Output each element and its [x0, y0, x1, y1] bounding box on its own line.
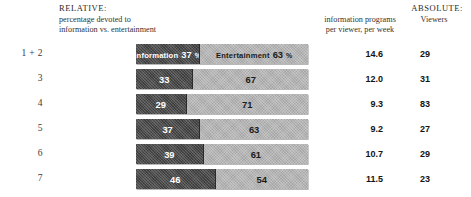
information-segment: Information37%: [136, 44, 200, 64]
row-label: 4: [0, 98, 43, 108]
stacked-bar: 3367: [136, 69, 308, 89]
chart-rows: 1 + 2Information37%Entertainment63%14.62…: [0, 44, 471, 194]
programs-per-viewer-value: 12.0: [330, 74, 383, 84]
entertainment-segment: 67: [193, 69, 308, 89]
entertainment-segment-value: 63: [249, 124, 259, 135]
information-segment-value: 33: [159, 74, 169, 85]
information-segment-value: 29: [156, 99, 166, 110]
viewers-value: 83: [393, 99, 430, 109]
absolute-column-title: ABSOLUTE:: [411, 3, 463, 13]
stacked-bar: 4654: [136, 169, 308, 189]
row-label: 3: [0, 73, 43, 83]
entertainment-segment-name: Entertainment: [216, 51, 270, 60]
viewers-value: 29: [393, 149, 430, 159]
entertainment-segment: Entertainment63%: [200, 44, 308, 64]
stacked-bar: 2971: [136, 94, 308, 114]
relative-column-subtitle: percentage devoted to information vs. en…: [59, 15, 156, 34]
information-segment: 33: [136, 69, 193, 89]
entertainment-segment: 63: [200, 119, 308, 139]
stacked-bar: Information37%Entertainment63%: [136, 44, 308, 64]
programs-per-viewer-value: 9.2: [330, 124, 383, 134]
absolute-subtitle-line-1: information programs: [312, 15, 408, 25]
information-segment-value: 46: [170, 174, 180, 185]
viewers-value: 31: [393, 74, 430, 84]
chart-row: 537639.227: [0, 119, 471, 139]
programs-per-viewer-value: 10.7: [330, 149, 383, 159]
chart-row: 1 + 2Information37%Entertainment63%14.62…: [0, 44, 471, 64]
absolute-column-subtitle: information programs per viewer, per wee…: [312, 15, 408, 34]
entertainment-segment-value: 54: [257, 174, 267, 185]
information-segment: 37: [136, 119, 200, 139]
stacked-bar: 3961: [136, 144, 308, 164]
row-label: 5: [0, 123, 43, 133]
viewers-column-header: Viewers: [408, 15, 460, 24]
entertainment-segment: 71: [187, 94, 308, 114]
viewers-value: 29: [393, 49, 430, 59]
programs-per-viewer-value: 9.3: [330, 99, 383, 109]
information-segment: 39: [136, 144, 204, 164]
information-segment: 29: [136, 94, 187, 114]
entertainment-segment-value: 67: [245, 74, 255, 85]
chart-row: 3336712.031: [0, 69, 471, 89]
relative-subtitle-line-1: percentage devoted to: [59, 15, 156, 25]
entertainment-segment: 54: [216, 169, 308, 189]
entertainment-segment: 61: [204, 144, 308, 164]
entertainment-segment-value: 71: [242, 99, 252, 110]
stacked-bar: 3763: [136, 119, 308, 139]
absolute-subtitle-line-2: per viewer, per week: [312, 25, 408, 35]
chart-sheet: RELATIVE: percentage devoted to informat…: [0, 0, 471, 197]
chart-row: 6396110.729: [0, 144, 471, 164]
chart-row: 7465411.523: [0, 169, 471, 189]
programs-per-viewer-value: 11.5: [330, 174, 383, 184]
viewers-value: 23: [393, 174, 430, 184]
row-label: 7: [0, 173, 43, 183]
programs-per-viewer-value: 14.6: [330, 49, 383, 59]
relative-column-title: RELATIVE:: [59, 3, 107, 13]
information-segment-value: 37: [162, 124, 172, 135]
information-segment-value: 39: [164, 149, 174, 160]
information-segment-name: Information: [136, 51, 178, 60]
viewers-value: 27: [393, 124, 430, 134]
percent-symbol: %: [286, 52, 292, 59]
chart-row: 429719.383: [0, 94, 471, 114]
relative-subtitle-line-2: information vs. entertainment: [59, 25, 156, 35]
row-label: 6: [0, 148, 43, 158]
row-label: 1 + 2: [0, 48, 43, 58]
entertainment-segment-value: 61: [251, 149, 261, 160]
information-segment-value: 37: [181, 49, 191, 60]
entertainment-segment-value: 63: [273, 49, 283, 60]
information-segment: 46: [136, 169, 216, 189]
